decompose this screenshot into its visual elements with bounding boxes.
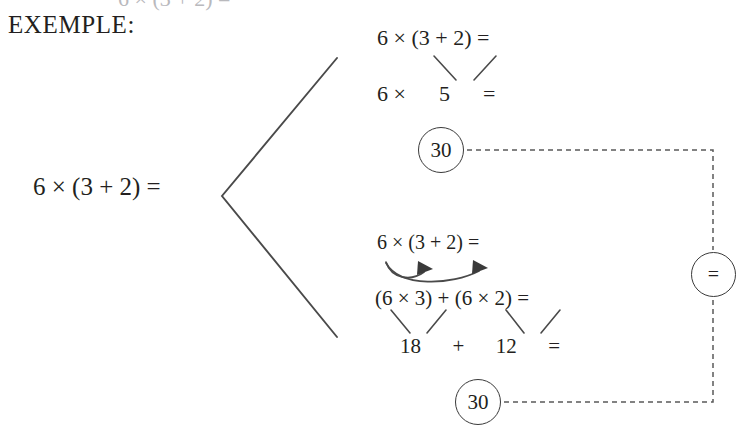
converge-line-left-12 xyxy=(506,310,524,333)
converge-line-right-top xyxy=(474,56,496,80)
converge-line-right-18 xyxy=(427,310,446,333)
converge-line-right-12 xyxy=(541,310,560,333)
worksheet-page: 6 × (3 + 2) = EXEMPLE: 6 × (3 + 2) = 6 ×… xyxy=(0,0,755,429)
branch-a-step-2: 6 × 5 = xyxy=(377,83,495,105)
dashed-link-top-result-to-equals xyxy=(467,150,713,250)
cropped-top-fragment: 6 × (3 + 2) = xyxy=(118,0,230,10)
branch-b-step-2: (6 × 3) + (6 × 2) = xyxy=(375,288,529,309)
branch-b-result-circle: 30 xyxy=(455,379,501,425)
distribute-arrow-to-3-curve xyxy=(386,262,424,278)
chevron-bracket xyxy=(222,58,337,337)
converge-line-left-18 xyxy=(391,310,410,333)
distribute-arrow-to-2-curve xyxy=(386,263,479,282)
branch-a-result-circle: 30 xyxy=(418,127,464,173)
source-expression: 6 × (3 + 2) = xyxy=(33,174,161,199)
diagram-lines-layer xyxy=(0,0,755,429)
branch-a-step-1: 6 × (3 + 2) = xyxy=(377,27,489,49)
page-title: EXEMPLE: xyxy=(8,12,135,37)
converge-line-left-top xyxy=(434,56,456,80)
distribute-arrow-to-3-head xyxy=(417,261,433,275)
branch-b-step-3: 18 + 12 = xyxy=(400,336,560,357)
distribute-arrow-to-2-head xyxy=(472,260,488,274)
branch-b-step-1: 6 × (3 + 2) = xyxy=(377,232,479,252)
equality-node: = xyxy=(691,252,736,297)
